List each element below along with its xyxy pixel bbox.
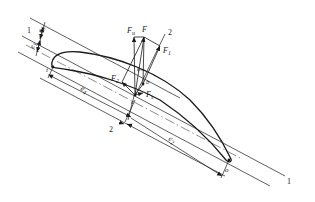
label-e4: e4 (79, 84, 89, 96)
label-section-1-bottom: 1 (287, 177, 291, 186)
label-Fu: Fu (126, 26, 135, 36)
label-i: i (46, 66, 48, 74)
guide-line-lower (18, 52, 270, 186)
label-o: o (225, 166, 229, 174)
label-b: b (146, 78, 150, 86)
airfoil-force-diagram: 1 1 2 2 i o b c φ F Fu F1 F2 Fs e3 e1 e4… (0, 0, 315, 202)
label-e1: e1 (28, 42, 38, 50)
airfoil-profile (52, 52, 231, 162)
label-Fs: Fs (145, 90, 154, 100)
point-c (134, 94, 137, 97)
dimension-e2 (131, 118, 229, 178)
force-vectors (122, 37, 160, 95)
label-F1: F1 (162, 46, 171, 56)
force-Fu (134, 37, 135, 95)
label-F2: F2 (110, 74, 119, 84)
point-b (142, 83, 145, 86)
label-e3: e3 (36, 26, 46, 34)
guide-line-top (30, 18, 180, 98)
guide-lines (18, 18, 285, 186)
label-section-2-bottom: 2 (109, 125, 113, 134)
label-section-1-top: 1 (27, 26, 31, 35)
label-F: F (141, 25, 147, 34)
label-section-2-top: 2 (168, 28, 172, 37)
